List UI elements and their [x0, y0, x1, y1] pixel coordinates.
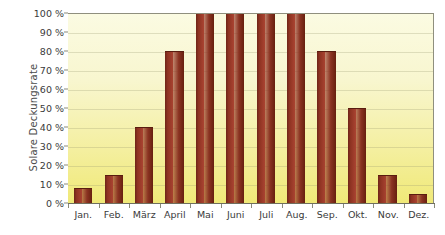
y-tick-mark	[64, 165, 68, 166]
x-tick-label: Jan.	[68, 209, 99, 227]
x-tick-mark	[68, 204, 69, 208]
y-tick-mark	[64, 51, 68, 52]
x-tick-mark	[190, 204, 191, 208]
bar-slot	[68, 14, 98, 203]
bar[interactable]	[165, 51, 183, 203]
bar-slot	[372, 14, 402, 203]
x-tick-label: März	[129, 209, 160, 227]
bar-slot	[129, 14, 159, 203]
bar[interactable]	[196, 13, 214, 203]
x-tick-mark	[282, 204, 283, 208]
bar[interactable]	[317, 51, 335, 203]
x-tick-label: Feb.	[99, 209, 130, 227]
solar-coverage-bar-chart: Solare Deckungsrate 0 %10 %20 %30 %40 %5…	[0, 0, 445, 235]
x-axis-tick-labels: Jan.Feb.MärzAprilMaiJuniJuliAug.Sep.Okt.…	[68, 209, 434, 227]
x-tick-label: Sep.	[312, 209, 343, 227]
x-tick-label: Dez.	[404, 209, 435, 227]
bar[interactable]	[105, 175, 123, 204]
bar[interactable]	[378, 175, 396, 204]
x-tick-label: Aug.	[282, 209, 313, 227]
bar[interactable]	[348, 108, 366, 203]
x-tick-mark	[99, 204, 100, 208]
x-tick-mark	[343, 204, 344, 208]
y-tick-label: 70 %	[28, 65, 64, 76]
x-tick-mark	[312, 204, 313, 208]
y-tick-mark	[64, 32, 68, 33]
y-tick-label: 80 %	[28, 46, 64, 57]
bar[interactable]	[226, 13, 244, 203]
x-tick-label: Nov.	[373, 209, 404, 227]
bar[interactable]	[135, 127, 153, 203]
y-tick-mark	[64, 184, 68, 185]
x-tick-mark	[221, 204, 222, 208]
bars-layer	[68, 14, 433, 203]
bar[interactable]	[287, 13, 305, 203]
y-tick-label: 60 %	[28, 84, 64, 95]
bar-slot	[281, 14, 311, 203]
bar-slot	[220, 14, 250, 203]
x-tick-mark	[373, 204, 374, 208]
y-tick-label: 40 %	[28, 122, 64, 133]
y-tick-mark	[64, 13, 68, 14]
x-tick-mark	[434, 204, 435, 208]
y-tick-mark	[64, 70, 68, 71]
x-tick-label: Okt.	[343, 209, 374, 227]
y-tick-label: 20 %	[28, 160, 64, 171]
y-tick-label: 10 %	[28, 179, 64, 190]
x-tick-mark	[160, 204, 161, 208]
bar-slot	[403, 14, 433, 203]
y-tick-label: 0 %	[28, 198, 64, 209]
bar[interactable]	[409, 194, 427, 204]
x-tick-mark	[404, 204, 405, 208]
bar-slot	[159, 14, 189, 203]
y-axis-tick-labels: 0 %10 %20 %30 %40 %50 %60 %70 %80 %90 %1…	[28, 13, 64, 203]
bar-slot	[311, 14, 341, 203]
bar-slot	[251, 14, 281, 203]
bar[interactable]	[74, 188, 92, 203]
bar[interactable]	[257, 13, 275, 203]
y-tick-mark	[64, 146, 68, 147]
x-tick-label: April	[160, 209, 191, 227]
y-tick-label: 90 %	[28, 27, 64, 38]
x-tick-label: Juli	[251, 209, 282, 227]
y-tick-label: 30 %	[28, 141, 64, 152]
y-tick-mark	[64, 127, 68, 128]
x-tick-label: Juni	[221, 209, 252, 227]
bar-slot	[342, 14, 372, 203]
x-tick-label: Mai	[190, 209, 221, 227]
y-tick-label: 100 %	[28, 8, 64, 19]
y-tick-mark	[64, 108, 68, 109]
y-tick-label: 50 %	[28, 103, 64, 114]
x-tick-mark	[251, 204, 252, 208]
x-tick-mark	[129, 204, 130, 208]
bar-slot	[190, 14, 220, 203]
y-tick-mark	[64, 89, 68, 90]
bar-slot	[98, 14, 128, 203]
plot-area	[68, 13, 434, 203]
